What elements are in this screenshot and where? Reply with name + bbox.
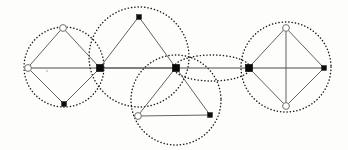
n-tri-dn-right bbox=[208, 113, 213, 118]
n-junction-mid bbox=[172, 64, 179, 71]
n-right-top bbox=[283, 25, 290, 32]
speck-left bbox=[46, 70, 48, 72]
n-right-bottom bbox=[283, 103, 290, 110]
specks-group bbox=[46, 70, 48, 72]
n-tri-dn-left bbox=[135, 113, 142, 120]
n-junction-left bbox=[96, 64, 103, 71]
n-tri-up-apex bbox=[137, 15, 142, 20]
n-left-west bbox=[25, 65, 32, 72]
n-junction-right bbox=[245, 64, 252, 71]
n-left-bottom bbox=[62, 102, 67, 107]
geometric-figure bbox=[0, 0, 348, 150]
n-right-east bbox=[322, 66, 327, 71]
n-left-top bbox=[60, 25, 67, 32]
diagram-root bbox=[0, 0, 348, 150]
